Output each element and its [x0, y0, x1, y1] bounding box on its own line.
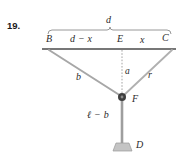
point-label-E: E — [117, 34, 123, 44]
node-F-center — [121, 96, 124, 99]
weight-block-D — [113, 143, 132, 151]
segment-label-x: x — [140, 35, 145, 45]
span-length-label: d — [106, 15, 111, 25]
point-label-C: C — [162, 33, 169, 43]
statics-diagram — [0, 0, 189, 160]
figure-container: 19. d B d − x E x C b a r F ℓ − b D — [0, 0, 189, 160]
cable-left-b — [49, 50, 121, 96]
point-label-F: F — [132, 94, 138, 104]
height-label-a: a — [125, 67, 130, 77]
cable-label-r: r — [148, 70, 152, 80]
rod-length-label: ℓ − b — [87, 110, 109, 120]
point-label-B: B — [46, 34, 52, 44]
span-brace — [48, 27, 171, 34]
segment-label-d-minus-x: d − x — [70, 34, 92, 44]
cable-label-b: b — [76, 72, 81, 82]
point-label-D: D — [136, 140, 143, 150]
